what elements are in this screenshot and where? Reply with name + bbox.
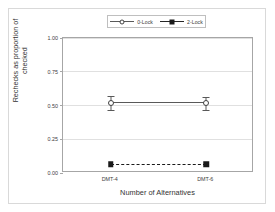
legend-line-dashed xyxy=(160,21,184,23)
y-tick-mark xyxy=(60,38,63,39)
data-point-0-lock xyxy=(203,100,209,106)
gridline xyxy=(63,71,252,72)
y-tick-label: 0.00 xyxy=(48,170,59,176)
y-tick-label: 1.00 xyxy=(48,35,59,41)
plot-area: 0.000.250.500.751.00 xyxy=(62,37,253,172)
legend-item-2-lock: 2-Lock xyxy=(160,19,203,25)
legend-label-2-lock: 2-Lock xyxy=(187,19,203,25)
legend-marker-filled-square xyxy=(170,20,175,25)
error-bar-cap xyxy=(107,110,114,111)
legend-item-0-lock: 0-Lock xyxy=(110,19,153,25)
error-bar-cap xyxy=(203,110,210,111)
y-tick-label: 0.25 xyxy=(48,136,59,142)
gridline xyxy=(63,139,252,140)
legend-line-solid xyxy=(110,21,134,22)
chart-legend: 0-Lock 2-Lock xyxy=(107,15,206,28)
x-axis-title: Number of Alternatives xyxy=(62,188,253,197)
y-axis-title-line2: checked xyxy=(20,47,29,74)
series-line-2-lock xyxy=(111,164,207,165)
y-tick-label: 0.75 xyxy=(48,69,59,75)
y-tick-mark xyxy=(60,173,63,174)
y-tick-mark xyxy=(60,105,63,106)
legend-label-0-lock: 0-Lock xyxy=(137,19,153,25)
gridline xyxy=(63,38,252,39)
error-bar-cap xyxy=(107,96,114,97)
data-point-0-lock xyxy=(108,100,114,106)
y-tick-mark xyxy=(60,71,63,72)
error-bar-cap xyxy=(203,97,210,98)
y-axis-title: Rechecks as proportion of checked xyxy=(12,0,29,126)
x-tick-label: DMT-6 xyxy=(197,176,213,182)
gridline xyxy=(63,105,252,106)
chart-figure: 0-Lock 2-Lock 0.000.250.500.751.00 Reche… xyxy=(0,0,275,212)
series-line-0-lock xyxy=(111,102,207,103)
data-point-2-lock xyxy=(108,161,114,167)
legend-marker-open-circle xyxy=(120,19,125,24)
y-tick-mark xyxy=(60,139,63,140)
data-point-2-lock xyxy=(204,161,210,167)
x-tick-label: DMT-4 xyxy=(102,176,118,182)
y-tick-label: 0.50 xyxy=(48,103,59,109)
